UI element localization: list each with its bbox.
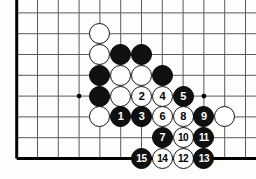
stone-move-number: 5 — [180, 90, 186, 101]
stone-move-number: 4 — [159, 90, 165, 101]
star-point — [77, 94, 82, 99]
stone-black-move-15: 15 — [131, 148, 152, 169]
stone-black — [152, 65, 173, 86]
stone-move-number: 8 — [180, 111, 186, 122]
stone-move-number: 14 — [157, 153, 167, 163]
stone-white-move-8: 8 — [173, 106, 194, 127]
stone-white-move-10: 10 — [173, 127, 194, 148]
stone-move-number: 2 — [139, 90, 145, 101]
stone-black-move-7: 7 — [152, 127, 173, 148]
go-diagram: 245136897101115141213 — [0, 0, 256, 179]
stone-move-number: 7 — [159, 132, 165, 143]
stone-white-move-2: 2 — [131, 86, 152, 107]
stone-move-number: 3 — [139, 111, 145, 122]
stone-move-number: 9 — [201, 111, 207, 122]
stone-move-number: 11 — [199, 132, 209, 142]
stone-move-number: 10 — [178, 132, 188, 142]
stone-move-number: 13 — [199, 153, 209, 163]
stone-move-number: 6 — [159, 111, 165, 122]
stone-white-move-14: 14 — [152, 148, 173, 169]
stone-black — [131, 44, 152, 65]
stone-move-number: 12 — [178, 153, 188, 163]
stone-white-move-4: 4 — [152, 86, 173, 107]
stone-white — [110, 86, 131, 107]
stone-black-move-5: 5 — [173, 86, 194, 107]
stone-white-move-12: 12 — [173, 148, 194, 169]
star-point — [202, 94, 207, 99]
stone-white — [131, 65, 152, 86]
stone-white — [110, 65, 131, 86]
stone-black — [89, 86, 110, 107]
stone-move-number: 15 — [136, 153, 146, 163]
stone-move-number: 1 — [118, 111, 124, 122]
